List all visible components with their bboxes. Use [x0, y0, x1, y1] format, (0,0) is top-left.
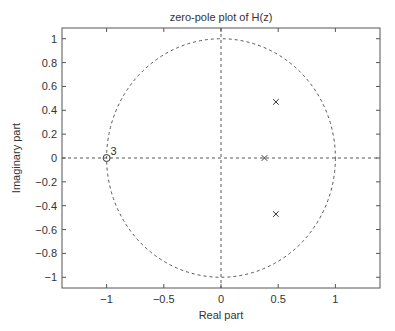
- y-tick-label: −0.2: [35, 176, 57, 188]
- multiplicity-label: 3: [111, 145, 117, 157]
- x-tick-label: −0.5: [153, 293, 175, 305]
- zero-pole-chart: zero-pole plot of H(z) Real part Imagina…: [0, 0, 395, 331]
- y-tick-label: −0.6: [35, 224, 57, 236]
- y-tick-label: −0.8: [35, 247, 57, 259]
- y-tick-label: −1: [44, 271, 57, 283]
- pole-marker: [273, 211, 279, 217]
- tick-labels: −1−0.500.5110.80.60.40.20−0.2−0.4−0.6−0.…: [35, 33, 338, 305]
- y-tick-label: 0.2: [42, 128, 57, 140]
- x-tick-label: 1: [332, 293, 338, 305]
- y-tick-label: 0.6: [42, 80, 57, 92]
- x-tick-label: 0.5: [271, 293, 286, 305]
- plot-svg: zero-pole plot of H(z) Real part Imagina…: [0, 0, 395, 331]
- y-tick-label: 0: [51, 152, 57, 164]
- x-tick-label: 0: [218, 293, 224, 305]
- y-tick-label: −0.4: [35, 200, 57, 212]
- x-axis-label: Real part: [199, 309, 244, 321]
- y-axis-label: Imaginary part: [10, 123, 22, 193]
- y-tick-label: 1: [51, 33, 57, 45]
- chart-title: zero-pole plot of H(z): [170, 11, 273, 23]
- pole-marker: [273, 99, 279, 105]
- x-tick-label: −1: [100, 293, 113, 305]
- y-tick-label: 0.8: [42, 57, 57, 69]
- y-tick-label: 0.4: [42, 104, 57, 116]
